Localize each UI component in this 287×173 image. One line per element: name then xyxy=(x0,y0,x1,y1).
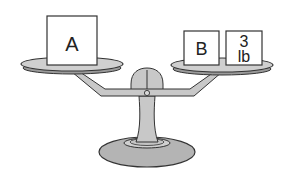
box-3lb-unit: lb xyxy=(238,48,251,65)
weight-box-b: B xyxy=(184,31,219,65)
box-a-label: A xyxy=(65,33,79,55)
balance-scale-diagram: A B 3 lb xyxy=(0,0,287,173)
weight-box-3lb: 3 lb xyxy=(226,31,262,65)
pivot-icon xyxy=(144,90,149,95)
scale-stem xyxy=(136,96,158,142)
box-b-label: B xyxy=(195,39,207,59)
weight-box-a: A xyxy=(47,16,97,65)
